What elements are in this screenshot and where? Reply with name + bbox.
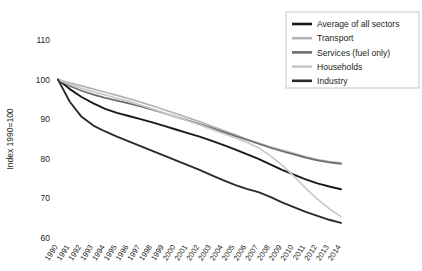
y-axis-tick-label: 100 (36, 75, 50, 85)
y-axis-tick-label: 110 (36, 35, 50, 45)
legend-label: Households (317, 62, 362, 72)
series-line (58, 80, 341, 163)
legend-label: Transport (317, 33, 354, 43)
y-axis-tick-label: 80 (41, 154, 51, 164)
y-axis-tick-label: 60 (41, 233, 51, 243)
x-axis-tick-labels: 1990199119921993199419951996199719981999… (43, 243, 343, 262)
chart-legend: Average of all sectorsTransportServices … (286, 12, 419, 88)
y-axis-title: Index 1990=100 (5, 108, 15, 169)
y-axis-tick-label: 70 (41, 193, 51, 203)
series-line (58, 80, 341, 217)
series-line (58, 80, 341, 223)
y-axis-tick-label: 90 (41, 114, 51, 124)
line-chart: 60708090100110 Index 1990=100 1990199119… (0, 0, 422, 271)
series-lines (58, 80, 341, 223)
chart-canvas: 60708090100110 Index 1990=100 1990199119… (0, 0, 422, 271)
legend-label: Services (fuel only) (317, 48, 390, 58)
x-axis-tick-label: 2014 (326, 243, 343, 262)
y-axis-tick-labels: 60708090100110 (36, 35, 50, 243)
legend-label: Industry (317, 76, 348, 86)
y-axis-title-text: Index 1990=100 (5, 108, 15, 169)
legend-label: Average of all sectors (317, 19, 399, 29)
